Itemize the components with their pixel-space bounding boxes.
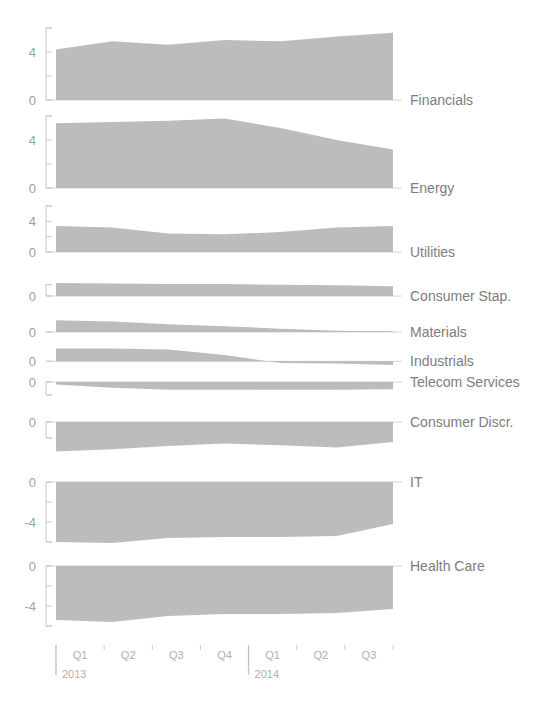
y-axis-spine	[46, 116, 52, 188]
y-axis-spine	[46, 28, 52, 100]
area-series	[56, 422, 393, 452]
sector-label: Utilities	[410, 244, 455, 260]
area-series	[56, 349, 393, 366]
quarter-label: Q3	[169, 649, 184, 661]
sector-label: Consumer Discr.	[410, 414, 513, 430]
area-series	[56, 320, 393, 332]
y-axis-spine	[46, 285, 52, 296]
area-series	[56, 283, 393, 296]
y-tick-label: 0	[29, 475, 36, 490]
y-tick-label: 4	[29, 45, 36, 60]
sector-label: Financials	[410, 92, 473, 108]
sector-label: Consumer Stap.	[410, 288, 511, 304]
panel-it: 0-4IT	[24, 474, 422, 543]
y-axis-spine	[46, 382, 52, 395]
y-tick-label: 0	[29, 415, 36, 430]
quarter-label: Q4	[217, 649, 232, 661]
panel-utilities: 04Utilities	[29, 206, 455, 260]
quarter-label: Q3	[362, 649, 377, 661]
panel-consumer-stap: 0Consumer Stap.	[29, 283, 511, 304]
x-axis: Q1Q2Q3Q4Q1Q2Q320132014	[56, 645, 393, 680]
year-label: 2014	[255, 668, 279, 680]
area-series	[56, 118, 393, 188]
panel-industrials: 0Industrials	[29, 349, 474, 370]
y-tick-label: 0	[29, 375, 36, 390]
area-series	[56, 482, 393, 543]
sector-label: Health Care	[410, 558, 485, 574]
y-axis-spine	[46, 482, 52, 542]
quarter-label: Q2	[121, 649, 136, 661]
y-axis-spine	[46, 206, 52, 252]
sector-label: Telecom Services	[410, 374, 520, 390]
year-label: 2013	[62, 668, 86, 680]
quarter-label: Q2	[313, 649, 328, 661]
panel-consumer-discr: 0Consumer Discr.	[29, 414, 514, 452]
panel-health-care: 0-4Health Care	[24, 558, 484, 626]
panel-energy: 04Energy	[29, 116, 455, 196]
area-series	[56, 382, 393, 390]
area-series	[56, 226, 393, 252]
y-tick-label: 0	[29, 559, 36, 574]
y-tick-label: 4	[29, 214, 36, 229]
panel-materials: 0Materials	[29, 320, 467, 340]
y-tick-label: 0	[29, 354, 36, 369]
y-tick-label: 0	[29, 181, 36, 196]
quarter-label: Q1	[265, 649, 280, 661]
sector-label: Energy	[410, 180, 454, 196]
quarter-label: Q1	[73, 649, 88, 661]
y-axis-spine	[46, 566, 52, 626]
sector-label: Materials	[410, 324, 467, 340]
sector-label: Industrials	[410, 353, 474, 369]
panel-financials: 04Financials	[29, 28, 473, 108]
area-series	[56, 566, 393, 622]
y-axis-spine	[46, 422, 52, 438]
y-tick-label: 0	[29, 325, 36, 340]
y-tick-label: 0	[29, 245, 36, 260]
small-multiples-area-chart: 04Financials04Energy04Utilities0Consumer…	[0, 0, 546, 709]
y-tick-label: 4	[29, 133, 36, 148]
chart-container: 04Financials04Energy04Utilities0Consumer…	[0, 0, 546, 709]
y-tick-label: 0	[29, 289, 36, 304]
y-tick-label: 0	[29, 93, 36, 108]
y-tick-label: -4	[24, 515, 36, 530]
y-tick-label: -4	[24, 599, 36, 614]
area-series	[56, 33, 393, 100]
sector-label: IT	[410, 474, 423, 490]
panel-telecom-services: 0Telecom Services	[29, 374, 520, 395]
